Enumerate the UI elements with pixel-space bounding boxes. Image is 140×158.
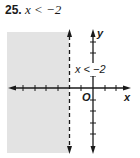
y-axis-label: y xyxy=(96,27,104,39)
shaded-region xyxy=(7,32,69,153)
region-label: x < −2 xyxy=(74,63,106,75)
inequality-graph: y x O x < −2 xyxy=(0,0,140,158)
y-axis xyxy=(90,29,96,154)
x-axis-label: x xyxy=(123,91,131,103)
origin-label: O xyxy=(82,91,91,103)
arrow-right-icon xyxy=(123,86,131,91)
arrow-down-icon xyxy=(91,146,96,154)
arrow-up-icon xyxy=(91,29,96,37)
